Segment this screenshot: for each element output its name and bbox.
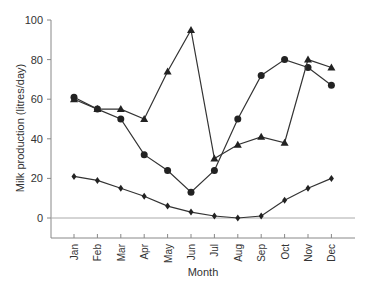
series-line bbox=[74, 60, 331, 193]
circle-marker bbox=[117, 116, 124, 123]
diamond-marker bbox=[118, 185, 123, 192]
y-tick-label: 20 bbox=[31, 172, 43, 184]
triangle-marker bbox=[304, 56, 312, 63]
triangle-marker bbox=[140, 115, 148, 122]
y-tick-label: 100 bbox=[25, 14, 43, 26]
circle-marker bbox=[281, 56, 288, 63]
diamond-marker bbox=[235, 215, 240, 222]
y-tick-label: 60 bbox=[31, 93, 43, 105]
circle-marker bbox=[164, 167, 171, 174]
triangle-marker bbox=[187, 26, 195, 33]
circle-marker bbox=[328, 82, 335, 89]
diamond-marker bbox=[165, 203, 170, 210]
x-tick-label: Dec bbox=[326, 244, 337, 262]
x-tick-label: Jun bbox=[186, 244, 197, 260]
diamond-marker bbox=[189, 209, 194, 216]
x-tick-label: May bbox=[163, 244, 174, 263]
circle-marker bbox=[234, 116, 241, 123]
x-tick-label: Feb bbox=[92, 244, 103, 262]
y-axis-label: Milk production (litres/day) bbox=[14, 64, 26, 192]
x-tick-label: Jul bbox=[209, 244, 220, 257]
chart-svg: 020406080100JanFebMarAprMayJunJulAugSepO… bbox=[0, 0, 372, 294]
series-line bbox=[74, 176, 331, 218]
y-tick-label: 80 bbox=[31, 54, 43, 66]
x-tick-label: Sep bbox=[256, 244, 267, 262]
series-line bbox=[74, 30, 331, 159]
x-tick-label: Apr bbox=[139, 243, 150, 259]
x-tick-label: Mar bbox=[116, 243, 127, 261]
x-tick-label: Aug bbox=[233, 244, 244, 262]
axes: 020406080100JanFebMarAprMayJunJulAugSepO… bbox=[25, 14, 355, 263]
y-tick-label: 40 bbox=[31, 133, 43, 145]
circle-marker bbox=[188, 189, 195, 196]
diamond-marker bbox=[72, 173, 77, 180]
diamond-marker bbox=[282, 197, 287, 204]
line-chart: 020406080100JanFebMarAprMayJunJulAugSepO… bbox=[0, 0, 372, 294]
series-circles bbox=[71, 56, 335, 196]
x-tick-label: Nov bbox=[303, 244, 314, 262]
circle-marker bbox=[141, 151, 148, 158]
series-group bbox=[70, 26, 335, 222]
x-tick-label: Oct bbox=[280, 244, 291, 260]
y-tick-label: 0 bbox=[37, 212, 43, 224]
triangle-marker bbox=[257, 133, 265, 140]
x-axis-label: Month bbox=[188, 266, 219, 278]
triangle-marker bbox=[210, 155, 218, 162]
diamond-marker bbox=[306, 185, 311, 192]
circle-marker bbox=[258, 72, 265, 79]
series-diamonds bbox=[72, 173, 334, 222]
diamond-marker bbox=[142, 193, 147, 200]
triangle-marker bbox=[164, 67, 172, 74]
series-triangles bbox=[70, 26, 335, 162]
diamond-marker bbox=[95, 177, 100, 184]
diamond-marker bbox=[329, 175, 334, 182]
x-tick-label: Jan bbox=[69, 244, 80, 260]
circle-marker bbox=[211, 167, 218, 174]
